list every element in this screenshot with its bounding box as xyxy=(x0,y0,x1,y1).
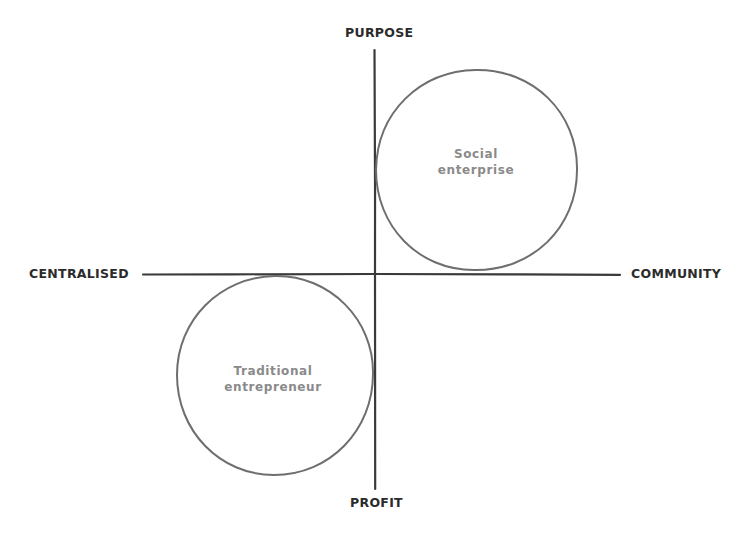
axis-label-centralised: CENTRALISED xyxy=(29,268,129,281)
traditional-entrepreneur-label-line2: entrepreneur xyxy=(218,379,328,395)
horizontal-axis-line xyxy=(143,274,620,275)
axis-label-purpose: PURPOSE xyxy=(345,27,413,40)
axis-label-profit: PROFIT xyxy=(350,497,403,510)
traditional-entrepreneur-label-line1: Traditional xyxy=(218,363,328,379)
traditional-entrepreneur-label: Traditional entrepreneur xyxy=(218,363,328,395)
vertical-axis-line xyxy=(375,50,376,489)
social-enterprise-label: Social enterprise xyxy=(432,146,520,178)
social-enterprise-label-line2: enterprise xyxy=(432,162,520,178)
axis-label-community: COMMUNITY xyxy=(631,268,721,281)
social-enterprise-label-line1: Social xyxy=(432,146,520,162)
quadrant-diagram: PURPOSE PROFIT CENTRALISED COMMUNITY Soc… xyxy=(0,0,748,537)
